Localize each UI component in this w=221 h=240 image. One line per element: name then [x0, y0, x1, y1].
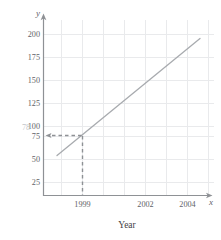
- y-tick-label: 125: [28, 99, 40, 108]
- y-tick-label: 75: [32, 132, 40, 141]
- x-tick-label: 2002: [137, 200, 153, 209]
- y-tick-label: 175: [28, 53, 40, 62]
- y-tick-label: 200: [28, 30, 40, 39]
- x-tick-label: 2004: [179, 200, 195, 209]
- chart-container: y x 200 175 150 125 100 75 50 25 1999 20…: [0, 0, 221, 240]
- y-tick-label: 25: [32, 178, 40, 187]
- value-annotation-78: 78: [22, 123, 30, 132]
- y-tick-label: 50: [32, 155, 40, 164]
- y-axis-variable-label: y: [35, 8, 40, 18]
- line-chart: y x 200 175 150 125 100 75 50 25 1999 20…: [0, 0, 221, 240]
- y-tick-label: 150: [28, 76, 40, 85]
- x-tick-label: 1999: [74, 200, 90, 209]
- x-axis-title: Year: [118, 220, 136, 230]
- x-axis-variable-label: x: [208, 197, 213, 207]
